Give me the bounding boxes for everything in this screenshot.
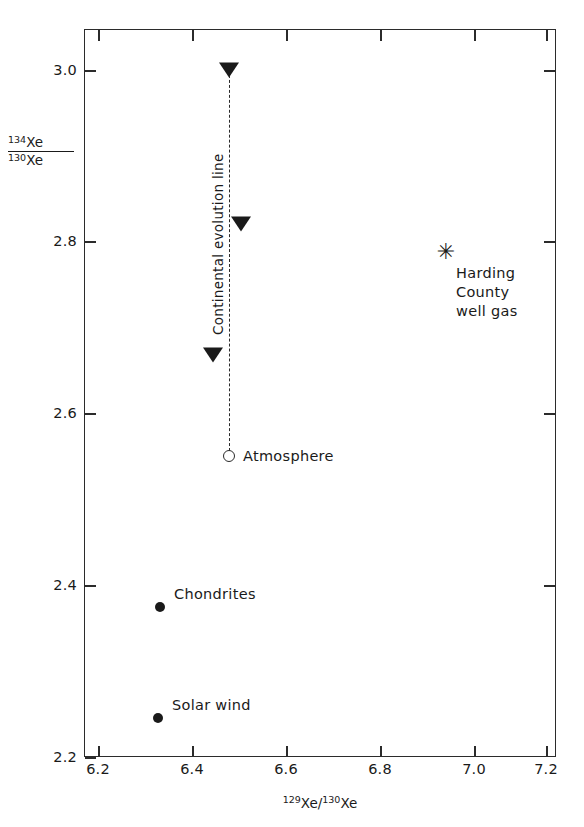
- harding-county-label-line1: Harding: [456, 264, 518, 283]
- y-tick-left: [85, 70, 96, 72]
- y-tick-label: 2.4: [39, 577, 77, 593]
- x-tick-top: [192, 30, 194, 41]
- x-tick-top: [286, 30, 288, 41]
- x-tick-label: 7.2: [534, 761, 558, 777]
- atmosphere-label: Atmosphere: [243, 447, 334, 466]
- x-tick-label: 6.8: [368, 761, 392, 777]
- continental-evolution-line: [229, 70, 230, 456]
- y-tick-label: 3.0: [39, 62, 77, 78]
- y-tick-left: [85, 241, 96, 243]
- xenon-isotope-scatter-plot: 6.2 6.4 6.6 6.8 7.0 7.2 2.2 2.4 2.6 2.8 …: [0, 0, 584, 827]
- x-tick-bottom: [286, 746, 288, 757]
- y-axis-title-numerator: 134Xe: [8, 135, 74, 152]
- x-axis-title: 129Xe/130Xe: [283, 794, 358, 811]
- x-axis-title-mid: Xe/: [301, 795, 323, 811]
- x-tick-label: 7.0: [462, 761, 486, 777]
- x-tick-bottom: [546, 746, 548, 757]
- y-tick-label: 2.6: [39, 405, 77, 421]
- y-tick-right: [544, 585, 555, 587]
- y-axis-num-sup: 134: [8, 134, 26, 145]
- x-axis-title-sup-129: 129: [283, 794, 301, 805]
- x-tick-label: 6.2: [86, 761, 110, 777]
- y-tick-label: 2.8: [39, 233, 77, 249]
- x-tick-label: 6.4: [180, 761, 204, 777]
- data-point-chondrites[interactable]: [155, 602, 165, 612]
- y-tick-right: [544, 241, 555, 243]
- x-tick-bottom: [380, 746, 382, 757]
- y-tick-right: [544, 413, 555, 415]
- y-axis-den-text: Xe: [26, 152, 43, 168]
- x-tick-bottom: [98, 746, 100, 757]
- x-axis-title-end: Xe: [340, 795, 357, 811]
- x-tick-top: [546, 30, 548, 41]
- x-tick-top: [98, 30, 100, 41]
- x-tick-bottom: [192, 746, 194, 757]
- x-tick-bottom: [474, 746, 476, 757]
- y-tick-right: [544, 70, 555, 72]
- continental-evolution-line-label: Continental evolution line: [210, 154, 226, 336]
- harding-county-label: Harding County well gas: [456, 264, 518, 321]
- harding-county-label-line2: County: [456, 283, 518, 302]
- chondrites-label: Chondrites: [174, 585, 256, 604]
- y-tick-left: [85, 413, 96, 415]
- x-tick-top: [474, 30, 476, 41]
- data-point-triangle[interactable]: [231, 217, 251, 232]
- y-tick-left: [85, 757, 96, 759]
- plot-frame: [84, 29, 556, 757]
- harding-county-label-line3: well gas: [456, 302, 518, 321]
- y-axis-title-denominator: 130Xe: [8, 152, 74, 168]
- x-tick-label: 6.6: [274, 761, 298, 777]
- data-point-harding-county-asterisk[interactable]: ✳: [437, 241, 455, 263]
- y-tick-label: 2.2: [39, 749, 77, 765]
- solar-wind-label: Solar wind: [172, 696, 251, 715]
- data-point-atmosphere[interactable]: [223, 450, 235, 462]
- data-point-solar-wind[interactable]: [153, 713, 163, 723]
- y-axis-den-sup: 130: [8, 152, 26, 163]
- data-point-triangle[interactable]: [203, 348, 223, 363]
- data-point-triangle[interactable]: [219, 63, 239, 78]
- y-tick-left: [85, 585, 96, 587]
- y-axis-num-text: Xe: [26, 134, 43, 150]
- x-tick-top: [380, 30, 382, 41]
- y-axis-title: 134Xe 130Xe: [8, 135, 74, 168]
- x-axis-title-sup-130: 130: [322, 794, 340, 805]
